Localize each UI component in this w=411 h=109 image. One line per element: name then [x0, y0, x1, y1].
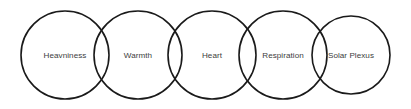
overlapping-circles-diagram: Heavniness Warmth Heart Respiration Sola…: [0, 0, 411, 109]
circle-label-solar-plexus: Solar Plexus: [328, 51, 374, 60]
circle-label-respiration: Respiration: [262, 51, 304, 60]
circle-label-heart: Heart: [202, 51, 223, 60]
circle-label-warmth: Warmth: [124, 51, 152, 60]
diagram-canvas: Heavniness Warmth Heart Respiration Sola…: [0, 0, 411, 109]
circle-label-heavniness: Heavniness: [44, 51, 87, 60]
